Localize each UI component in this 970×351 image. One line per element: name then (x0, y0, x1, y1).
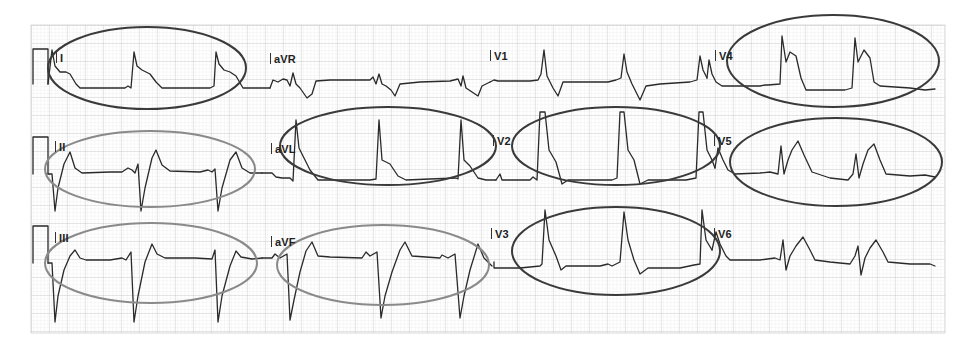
lead-label-III: III (55, 232, 69, 244)
lead-label-V2: V2 (493, 135, 511, 147)
lead-label-V1: V1 (490, 50, 508, 62)
lead-label-aVL: aVL (271, 143, 296, 155)
lead-label-aVR: aVR (270, 53, 296, 65)
lead-label-II: II (55, 141, 66, 153)
ecg-sheet (0, 0, 970, 351)
lead-label-V3: V3 (491, 228, 509, 240)
lead-label-V6: V6 (714, 228, 732, 240)
lead-label-V4: V4 (715, 50, 733, 62)
lead-label-I: I (56, 52, 63, 64)
ecg-grid (31, 25, 945, 333)
lead-label-V5: V5 (714, 135, 732, 147)
lead-label-aVF: aVF (271, 236, 296, 248)
